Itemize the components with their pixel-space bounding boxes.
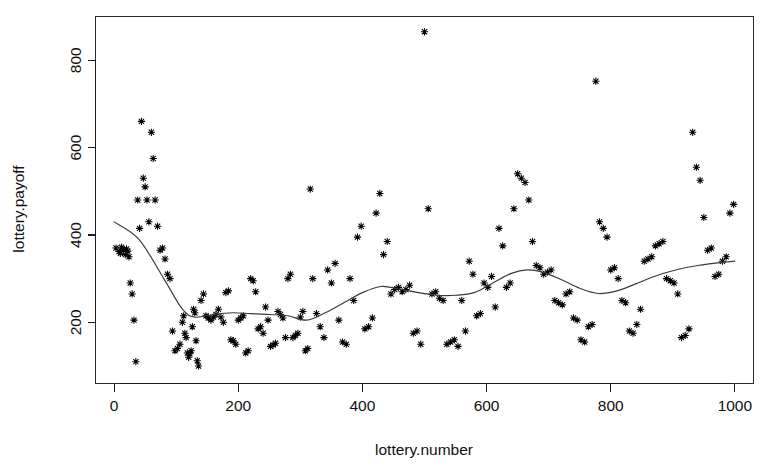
scatter-point	[376, 190, 383, 197]
scatter-point	[417, 341, 424, 348]
scatter-point	[559, 301, 566, 308]
star-marker-icon	[488, 273, 495, 280]
star-marker-icon	[134, 196, 141, 203]
star-marker-icon	[682, 332, 689, 339]
scatter-point	[140, 175, 147, 182]
scatter-point	[499, 242, 506, 249]
star-marker-icon	[346, 275, 353, 282]
star-marker-icon	[697, 177, 704, 184]
scatter-point	[220, 319, 227, 326]
scatter-point	[166, 275, 173, 282]
scatter-point	[124, 248, 131, 255]
scatter-point	[406, 282, 413, 289]
scatter-point	[372, 210, 379, 217]
scatter-point	[191, 309, 198, 316]
y-axis-title: lottery.payoff	[10, 165, 27, 253]
scatter-point	[413, 327, 420, 334]
star-marker-icon	[142, 183, 149, 190]
scatter-point	[440, 297, 447, 304]
x-tick-label-600: 600	[474, 397, 500, 414]
scatter-point	[548, 266, 555, 273]
star-marker-icon	[425, 205, 432, 212]
star-marker-icon	[264, 317, 271, 324]
star-marker-icon	[622, 299, 629, 306]
star-marker-icon	[154, 223, 161, 230]
star-marker-icon	[328, 279, 335, 286]
scatter-point	[715, 271, 722, 278]
scatter-point	[183, 334, 190, 341]
star-marker-icon	[192, 337, 199, 344]
scatter-point	[611, 264, 618, 271]
star-marker-icon	[304, 345, 311, 352]
star-marker-icon	[262, 303, 269, 310]
star-marker-icon	[674, 290, 681, 297]
star-marker-icon	[124, 248, 131, 255]
lottery-scatter-figure: 02004006008001000 200400600800 lottery.n…	[0, 0, 763, 475]
scatter-point	[197, 297, 204, 304]
scatter-point	[282, 334, 289, 341]
scatter-point	[507, 279, 514, 286]
scatter-point	[257, 323, 264, 330]
star-marker-icon	[358, 223, 365, 230]
scatter-point	[307, 185, 314, 192]
scatter-point	[145, 218, 152, 225]
star-marker-icon	[730, 201, 737, 208]
x-axis-title: lottery.number	[375, 441, 473, 458]
star-marker-icon	[413, 327, 420, 334]
scatter-point	[682, 332, 689, 339]
star-marker-icon	[726, 210, 733, 217]
star-marker-icon	[421, 28, 428, 35]
y-tick-label-800: 800	[67, 47, 84, 73]
star-marker-icon	[454, 343, 461, 350]
scatter-point	[343, 341, 350, 348]
scatter-point	[592, 78, 599, 85]
star-marker-icon	[195, 362, 202, 369]
scatter-point	[354, 234, 361, 241]
scatter-point	[697, 177, 704, 184]
scatter-point	[600, 225, 607, 232]
star-marker-icon	[151, 196, 158, 203]
star-marker-icon	[581, 338, 588, 345]
scatter-point	[488, 273, 495, 280]
star-marker-icon	[566, 288, 573, 295]
star-marker-icon	[143, 196, 150, 203]
scatter-point	[159, 244, 166, 251]
scatter-point	[294, 330, 301, 337]
scatter-point	[187, 347, 194, 354]
star-marker-icon	[159, 244, 166, 251]
star-marker-icon	[169, 327, 176, 334]
scatter-point	[232, 341, 239, 348]
star-marker-icon	[592, 78, 599, 85]
scatter-point	[670, 279, 677, 286]
star-marker-icon	[432, 288, 439, 295]
star-marker-icon	[451, 336, 458, 343]
scatter-point	[536, 264, 543, 271]
scatter-point	[317, 323, 324, 330]
scatter-point	[320, 334, 327, 341]
scatter-point	[674, 290, 681, 297]
star-marker-icon	[129, 290, 136, 297]
scatter-point	[130, 317, 137, 324]
star-marker-icon	[380, 251, 387, 258]
scatter-point	[328, 279, 335, 286]
star-marker-icon	[376, 190, 383, 197]
star-marker-icon	[708, 244, 715, 251]
scatter-point	[324, 266, 331, 273]
scatter-point	[622, 299, 629, 306]
scatter-point	[250, 277, 257, 284]
scatter-point	[215, 306, 222, 313]
scatter-point	[581, 338, 588, 345]
star-marker-icon	[466, 258, 473, 265]
star-marker-icon	[611, 264, 618, 271]
star-marker-icon	[715, 271, 722, 278]
star-marker-icon	[220, 319, 227, 326]
star-marker-icon	[589, 321, 596, 328]
star-marker-icon	[150, 155, 157, 162]
scatter-point	[454, 343, 461, 350]
star-marker-icon	[685, 325, 692, 332]
star-marker-icon	[507, 279, 514, 286]
star-marker-icon	[492, 303, 499, 310]
scatter-point	[150, 155, 157, 162]
x-tick-label-0: 0	[110, 397, 119, 414]
scatter-point	[700, 214, 707, 221]
